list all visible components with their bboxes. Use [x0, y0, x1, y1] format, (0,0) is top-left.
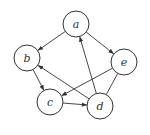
edge-e-d — [106, 73, 118, 94]
edge-a-b — [38, 31, 66, 50]
node-label: e — [121, 56, 128, 69]
node-label: b — [23, 52, 30, 65]
directed-graph: abcde — [0, 0, 150, 135]
node-label: a — [73, 18, 80, 31]
node-c: c — [37, 89, 63, 115]
node-d: d — [87, 93, 113, 119]
edge-b-c — [33, 70, 44, 91]
node-a: a — [63, 11, 89, 37]
node-label: d — [96, 100, 103, 113]
node-label: c — [47, 96, 53, 109]
edge-a-e — [86, 32, 114, 54]
edge-c-d — [63, 103, 87, 105]
node-e: e — [111, 49, 137, 75]
edge-e-c — [61, 68, 112, 96]
node-b: b — [14, 45, 40, 71]
